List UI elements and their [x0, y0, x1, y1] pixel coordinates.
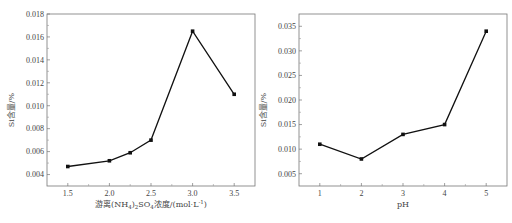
x-tick-label: 2.0	[104, 189, 114, 198]
x-tick-label: 4	[443, 189, 447, 198]
chart-right-ph: 0.0050.0100.0150.0200.0250.0300.03512345…	[258, 14, 507, 209]
x-tick-label: 2.5	[146, 189, 156, 198]
x-axis-title: pH	[397, 200, 409, 209]
data-point-marker	[401, 133, 405, 137]
y-tick-label: 0.006	[26, 147, 44, 156]
x-tick-label: 1.5	[63, 189, 73, 198]
y-tick-label: 0.035	[278, 22, 296, 31]
x-tick-label: 2	[359, 189, 363, 198]
plot-frame	[47, 14, 255, 186]
data-point-marker	[232, 92, 236, 96]
x-tick-label: 5	[484, 189, 488, 198]
x-tick-label: 3	[401, 189, 405, 198]
y-tick-label: 0.010	[278, 145, 296, 154]
y-tick-label: 0.012	[26, 79, 44, 88]
x-axis-title: 游离(NH4)2SO4浓度/(mol·L-1)	[95, 199, 207, 210]
x-tick-label: 3.0	[188, 189, 198, 198]
figure: 0.0040.0060.0080.0100.0120.0140.0160.018…	[0, 0, 512, 223]
data-point-marker	[149, 138, 153, 142]
data-point-marker	[191, 29, 195, 33]
y-axis-title: Si含量/%	[6, 92, 16, 127]
data-point-marker	[443, 123, 447, 127]
y-tick-label: 0.015	[278, 120, 296, 129]
y-tick-label: 0.014	[26, 56, 44, 65]
y-tick-label: 0.020	[278, 96, 296, 105]
data-point-marker	[318, 142, 322, 146]
x-tick-label: 1	[318, 189, 322, 198]
y-tick-label: 0.018	[26, 10, 44, 19]
data-line	[68, 31, 234, 166]
data-point-marker	[360, 157, 364, 161]
plot-frame	[299, 14, 507, 186]
chart-left-ammonium-sulfate: 0.0040.0060.0080.0100.0120.0140.0160.018…	[6, 10, 255, 210]
y-tick-label: 0.025	[278, 71, 296, 80]
y-tick-label: 0.008	[26, 124, 44, 133]
y-tick-label: 0.016	[26, 33, 44, 42]
data-point-marker	[108, 159, 112, 163]
y-tick-label: 0.004	[26, 170, 44, 179]
data-line	[320, 31, 486, 159]
y-tick-label: 0.030	[278, 47, 296, 56]
data-point-marker	[484, 29, 488, 33]
y-tick-label: 0.010	[26, 102, 44, 111]
y-tick-label: 0.005	[278, 170, 296, 179]
data-point-marker	[66, 165, 70, 169]
y-axis-title: Si含量/%	[258, 92, 268, 127]
x-tick-label: 3.5	[229, 189, 239, 198]
data-point-marker	[128, 151, 132, 155]
